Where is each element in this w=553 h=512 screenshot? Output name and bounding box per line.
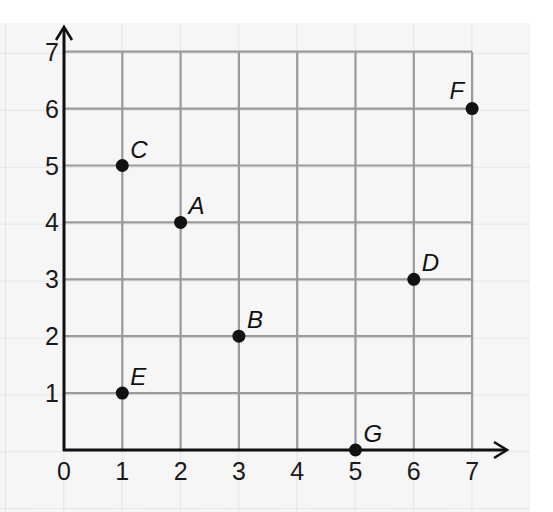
point-label: C (130, 136, 148, 163)
y-tick-label: 6 (45, 95, 59, 123)
x-tick-label: 2 (174, 457, 188, 485)
x-tick-label: 5 (349, 457, 363, 485)
point-marker-icon (407, 273, 420, 286)
x-tick-label: 3 (232, 457, 246, 485)
point-label: D (422, 249, 439, 276)
x-tick-label: 0 (57, 457, 71, 485)
point-label: A (187, 192, 205, 219)
point-label: B (247, 306, 263, 333)
point-marker-icon (232, 330, 245, 343)
y-tick-label: 3 (45, 265, 59, 293)
point-marker-icon (349, 444, 362, 457)
y-tick-label: 1 (45, 379, 59, 407)
point-label: E (130, 363, 147, 390)
y-tick-label: 4 (45, 208, 59, 236)
x-tick-label: 4 (290, 457, 304, 485)
x-tick-label: 1 (115, 457, 129, 485)
point-marker-icon (466, 102, 479, 115)
coordinate-plane: 01234567 1234567 ABCDEFG (0, 0, 553, 512)
point-marker-icon (116, 387, 129, 400)
point-marker-icon (174, 216, 187, 229)
point-marker-icon (116, 159, 129, 172)
x-tick-labels: 01234567 (57, 457, 479, 485)
y-tick-labels: 1234567 (45, 38, 59, 407)
y-tick-label: 7 (45, 38, 59, 66)
y-tick-label: 5 (45, 152, 59, 180)
x-tick-label: 7 (465, 457, 479, 485)
y-tick-label: 2 (45, 322, 59, 350)
point-label: G (364, 420, 383, 447)
point-label: F (449, 77, 465, 104)
x-tick-label: 6 (407, 457, 421, 485)
